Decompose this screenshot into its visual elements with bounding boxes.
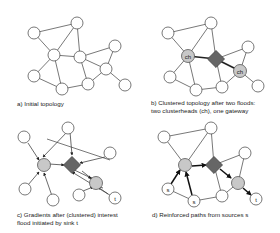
panel-d-nodes (158, 122, 262, 207)
caption-b-line2: two clusterheads (ch), one gateway (151, 107, 248, 115)
source-label: s (167, 187, 170, 193)
sensor-node (162, 27, 174, 39)
clusterhead-label: ch (237, 69, 243, 75)
panel-c-nodes (18, 122, 121, 206)
clusterhead-label: ch (185, 54, 191, 60)
sensor-node (47, 194, 59, 206)
sensor-node (18, 131, 30, 143)
clusterhead-node (90, 177, 103, 190)
caption-b-line1: b) Clustered topology after two floods: (151, 99, 255, 107)
sensor-node (82, 78, 94, 90)
sensor-node (109, 40, 121, 52)
panel-a-nodes (28, 17, 131, 95)
sensor-node (48, 49, 60, 61)
gateway-node (64, 157, 81, 174)
sensor-node (19, 183, 31, 195)
sensor-node (104, 147, 116, 159)
caption-c-line1: c) Gradients after (clustered) interest (17, 211, 118, 219)
clusterhead-node (179, 159, 192, 172)
gateway-node (208, 51, 225, 68)
caption-d: d) Reinforced paths from sources s (152, 211, 248, 219)
sensor-node (28, 27, 40, 39)
sensor-node (100, 63, 112, 75)
sensor-node (216, 190, 228, 202)
panel-b-nodes (162, 17, 264, 96)
gateway-node (206, 157, 223, 174)
sensor-node (205, 17, 217, 29)
sensor-node (164, 71, 176, 83)
sensor-node (252, 80, 264, 92)
panel-c-gradients (47, 139, 110, 160)
sensor-node (242, 41, 254, 53)
sensor-node (158, 131, 170, 143)
sensor-node (239, 147, 251, 159)
sensor-node (56, 83, 68, 95)
caption-c-line2: flood initiated by sink t (17, 219, 78, 227)
sensor-node (205, 122, 217, 134)
sensor-node (216, 81, 228, 93)
sensor-node (73, 189, 85, 201)
sensor-node (190, 84, 202, 96)
sensor-node (119, 79, 131, 91)
clusterhead-node (38, 159, 51, 172)
sensor-node (74, 51, 86, 63)
sensor-node (71, 17, 83, 29)
source-label: s (193, 199, 196, 205)
diagram-canvas: ch ch t (0, 0, 280, 233)
sensor-node (62, 122, 74, 134)
clusterhead-node (232, 177, 245, 190)
caption-a: a) Initial topology (17, 100, 64, 108)
sensor-node (28, 70, 40, 82)
